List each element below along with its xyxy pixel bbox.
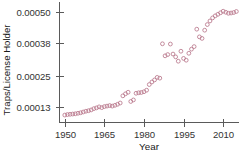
y-tick-label: 0.00038 <box>17 38 51 49</box>
x-tick-group: 19501965198019952010 <box>55 119 234 140</box>
x-tick-label: 1980 <box>134 129 155 140</box>
x-axis-title: Year <box>139 141 160 152</box>
data-point <box>168 42 172 46</box>
scatter-plot: 0.000130.000250.000380.00050 19501965198… <box>0 0 239 156</box>
data-point <box>205 23 209 27</box>
y-tick-label: 0.00025 <box>17 71 51 82</box>
x-tick-label: 2010 <box>213 129 234 140</box>
data-point <box>187 51 191 55</box>
y-tick-label: 0.00013 <box>17 102 51 113</box>
x-tick-label: 1965 <box>94 129 115 140</box>
y-tick-group: 0.000130.000250.000380.00050 <box>17 7 64 113</box>
data-point <box>179 49 183 53</box>
chart-figure: 0.000130.000250.000380.00050 19501965198… <box>0 0 239 156</box>
x-tick-label: 1950 <box>55 129 76 140</box>
data-point <box>161 42 165 46</box>
y-axis-title: Traps/License Holder <box>1 24 12 116</box>
data-point <box>195 27 199 31</box>
data-point <box>174 55 178 59</box>
x-tick-label: 1995 <box>174 129 195 140</box>
data-point <box>176 59 180 63</box>
data-point <box>192 45 196 49</box>
y-tick-label: 0.00050 <box>17 7 51 18</box>
data-point <box>203 28 207 32</box>
data-point-group <box>63 9 238 117</box>
